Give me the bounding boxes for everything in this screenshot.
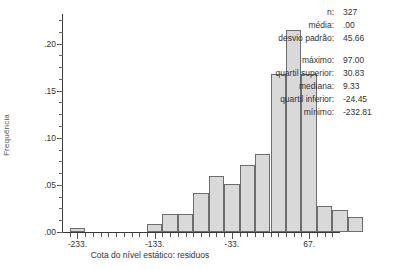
y-minor-tick	[59, 138, 63, 139]
histogram-bar	[317, 206, 332, 232]
stat-value: -24.45	[334, 95, 389, 104]
x-tick-label: -233.	[68, 239, 87, 249]
y-minor-tick	[59, 126, 63, 127]
histogram-bar	[348, 217, 363, 232]
x-minor-tick	[286, 233, 287, 237]
y-minor-tick	[59, 91, 63, 92]
stat-value: 45.66	[334, 34, 389, 43]
histogram-bar	[255, 154, 270, 232]
x-minor-tick	[162, 233, 163, 237]
y-minor-tick	[59, 114, 63, 115]
y-axis-line	[62, 14, 63, 232]
histogram-bar	[209, 176, 224, 232]
stat-value: -232.81	[334, 108, 389, 117]
histogram-bar	[162, 214, 177, 232]
statistics-panel: n:327média:.00desvio padrão:45.66máximo:…	[239, 8, 389, 121]
x-minor-tick	[216, 233, 217, 237]
x-minor-tick	[170, 233, 171, 237]
y-tick-label: .05	[30, 180, 56, 190]
y-minor-tick	[59, 79, 63, 80]
stat-label: n:	[327, 8, 334, 17]
x-minor-tick	[247, 233, 248, 237]
x-minor-tick	[263, 233, 264, 237]
y-minor-tick	[59, 67, 63, 68]
x-minor-tick	[325, 233, 326, 237]
stat-row: mínimo:-232.81	[239, 108, 389, 121]
y-minor-tick	[59, 208, 63, 209]
x-minor-tick	[116, 233, 117, 237]
stat-label: média:	[308, 21, 334, 30]
y-minor-tick	[59, 173, 63, 174]
x-minor-tick	[278, 233, 279, 237]
y-minor-tick	[59, 185, 63, 186]
y-minor-tick	[59, 150, 63, 151]
x-minor-tick	[255, 233, 256, 237]
stat-label: quartil inferior:	[280, 95, 334, 104]
stat-value: 9.33	[334, 82, 389, 91]
x-minor-tick	[271, 233, 272, 237]
histogram-bar	[240, 165, 255, 232]
x-minor-tick	[108, 233, 109, 237]
x-minor-tick	[124, 233, 125, 237]
x-tick-label: 67.	[303, 239, 315, 249]
x-minor-tick	[193, 233, 194, 237]
x-minor-tick	[186, 233, 187, 237]
stat-value: 97.00	[334, 56, 389, 65]
x-minor-tick	[201, 233, 202, 237]
stat-row: desvio padrão:45.66	[239, 34, 389, 47]
stat-value: 30.83	[334, 69, 389, 78]
stat-label: máximo:	[302, 56, 334, 65]
y-axis-label: Frequência	[2, 90, 16, 180]
y-minor-tick	[59, 102, 63, 103]
x-minor-tick	[224, 233, 225, 237]
x-minor-tick	[147, 233, 148, 237]
y-tick-label: .20	[30, 39, 56, 49]
y-minor-tick	[59, 20, 63, 21]
y-minor-tick	[59, 197, 63, 198]
y-minor-tick	[59, 55, 63, 56]
stat-label: desvio padrão:	[278, 34, 334, 43]
histogram-bar	[178, 214, 193, 232]
x-axis-title: Cota do nível estático: residuos	[0, 250, 300, 260]
x-tick-label: -33.	[225, 239, 240, 249]
x-minor-tick	[209, 233, 210, 237]
x-minor-tick	[332, 233, 333, 237]
histogram-bar	[193, 193, 208, 232]
x-minor-tick	[301, 233, 302, 237]
y-minor-tick	[59, 232, 63, 233]
y-minor-tick	[59, 32, 63, 33]
x-minor-tick	[139, 233, 140, 237]
x-minor-tick	[85, 233, 86, 237]
histogram-bar	[224, 184, 239, 232]
y-tick-label: .10	[30, 133, 56, 143]
histogram-bar	[70, 228, 85, 232]
x-minor-tick	[317, 233, 318, 237]
x-minor-tick	[240, 233, 241, 237]
y-minor-tick	[59, 220, 63, 221]
y-minor-tick	[59, 161, 63, 162]
stat-label: mediana:	[299, 82, 334, 91]
histogram-bar	[332, 210, 347, 232]
x-minor-tick	[132, 233, 133, 237]
x-minor-tick	[294, 233, 295, 237]
stat-label: quartil superior:	[275, 69, 334, 78]
x-minor-tick	[101, 233, 102, 237]
y-minor-tick	[59, 44, 63, 45]
stat-label: mínimo:	[304, 108, 334, 117]
x-minor-tick	[93, 233, 94, 237]
histogram-bar	[147, 224, 162, 232]
x-tick-label: -133.	[145, 239, 164, 249]
x-minor-tick	[70, 233, 71, 237]
x-minor-tick	[178, 233, 179, 237]
y-tick-label: .00	[30, 227, 56, 237]
stat-value: 327	[334, 8, 389, 17]
y-tick-label: .15	[30, 86, 56, 96]
histogram-chart: Frequência .00.05.10.15.20 -233.-133.-33…	[0, 0, 395, 270]
stat-value: .00	[334, 21, 389, 30]
